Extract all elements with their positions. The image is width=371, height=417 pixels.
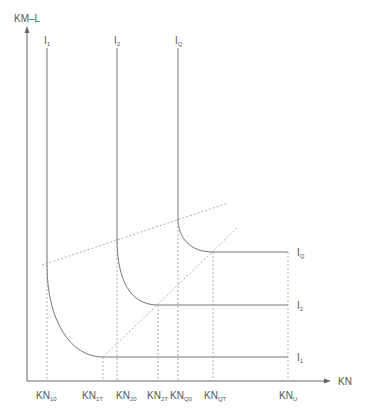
tick-kn10: KN10 [36, 390, 57, 402]
isoquant-iq [178, 48, 288, 252]
y-axis-arrow-icon [25, 26, 30, 33]
isoquant-i1 [47, 48, 288, 357]
curve-label-top-i1: I1 [44, 35, 51, 47]
curve-label-right-i2: I2 [297, 300, 304, 312]
isoquant-diagram: KM–L KN I1 I2 IQ IQ I2 I1 KN10 KN1T KN20… [0, 0, 371, 417]
x-axis-label: KN [338, 376, 352, 387]
tick-knqt: KNQT [204, 390, 227, 402]
expansion-path-lower [103, 228, 237, 357]
curve-label-top-iq: IQ [175, 35, 183, 47]
x-axis-arrow-icon [324, 379, 331, 384]
tick-kn20: KN20 [116, 390, 137, 402]
y-axis-label: KM–L [14, 13, 41, 24]
expansion-path-upper [42, 203, 228, 265]
tick-kn1t: KN1T [82, 390, 103, 402]
tick-knu: KNU [279, 390, 297, 402]
tick-knq0: KNQ0 [170, 390, 193, 402]
curve-label-top-i2: I2 [114, 35, 121, 47]
curve-label-right-iq: IQ [297, 247, 305, 259]
isoquant-i2 [117, 48, 288, 305]
curve-label-right-i1: I1 [297, 352, 304, 364]
tick-kn2t: KN2T [147, 390, 168, 402]
